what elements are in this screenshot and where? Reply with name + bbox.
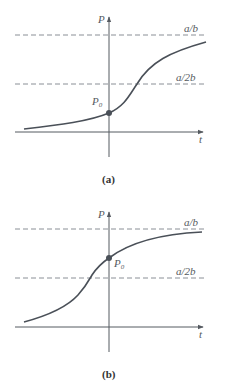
logistic-curve-b <box>24 232 202 322</box>
asymptote-label: a/b <box>184 216 199 228</box>
half-asymptote-label: a/2b <box>176 71 196 83</box>
caption-b: (b) <box>102 368 116 381</box>
logistic-diagram: P t a/b a/2b P0 (a) P t a/b a/2b P0 (b) <box>0 0 225 388</box>
p0-label: P0 <box>91 95 103 109</box>
panel-a: P t a/b a/2b P0 (a) <box>15 13 206 186</box>
p0-label: P0 <box>113 257 125 271</box>
p-axis-label: P <box>97 208 105 220</box>
t-axis-label: t <box>199 328 203 340</box>
t-axis-label: t <box>199 133 203 145</box>
asymptote-label: a/b <box>184 22 199 34</box>
initial-point-p0 <box>106 255 112 261</box>
half-asymptote-label: a/2b <box>176 265 196 277</box>
initial-point-p0 <box>106 110 112 116</box>
p-axis-label: P <box>97 13 105 25</box>
caption-a: (a) <box>102 173 115 186</box>
logistic-curve-a <box>24 42 206 129</box>
panel-b: P t a/b a/2b P0 (b) <box>15 208 205 381</box>
